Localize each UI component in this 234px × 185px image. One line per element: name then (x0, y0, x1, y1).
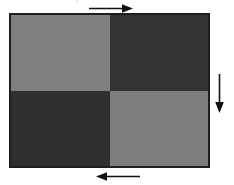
arrow-left-icon (95, 171, 141, 182)
text-remnant: | (76, 0, 78, 2)
text-remnant: ▸ (124, 0, 130, 2)
text-remnant: — (104, 0, 115, 2)
quadrant-top-left (11, 15, 110, 91)
text-remnant: · (160, 0, 164, 2)
quadrant-bottom-right (110, 91, 209, 167)
arrow-down-icon (214, 73, 225, 114)
figure-canvas: | — ▸ · (0, 0, 234, 185)
figure-rectangle (9, 13, 210, 168)
arrow-right-icon (88, 3, 134, 14)
quadrant-grid (11, 15, 208, 166)
quadrant-bottom-left (11, 91, 110, 167)
quadrant-top-right (110, 15, 209, 91)
